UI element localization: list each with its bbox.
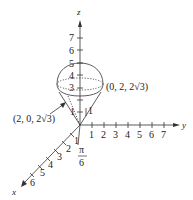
- y-tick-label: 6: [149, 129, 154, 140]
- y-axis-label: y: [181, 120, 186, 130]
- z-tick-label: 5: [69, 58, 74, 69]
- cone-height-label: 1: [88, 105, 93, 116]
- point-label-left: (2, 0, 2√3): [13, 113, 55, 125]
- y-axis-arrow-icon: [173, 123, 180, 127]
- y-tick-label: 2: [101, 129, 106, 140]
- angle-numerator: π: [79, 144, 84, 155]
- z-tick-label: 1: [70, 106, 75, 117]
- x-axis: [24, 125, 80, 183]
- y-tick-label: 7: [161, 129, 166, 140]
- solid-of-ice-cream-cone-diagram: z y x 7 6 5 4 3 1 1 2 3 4 5 6 7 1 2 3 4 …: [0, 0, 193, 200]
- x-tick-label: 2: [66, 143, 71, 154]
- z-tick-label: 4: [69, 70, 74, 81]
- angle-denominator: 6: [79, 157, 84, 168]
- x-axis-label: x: [11, 187, 16, 197]
- y-tick-label: 4: [125, 129, 130, 140]
- x-tick-label: 4: [48, 159, 53, 170]
- pointer-arrow-icon: [60, 102, 66, 108]
- z-axis-label: z: [76, 7, 81, 17]
- point-label-right: (0, 2, 2√3): [106, 81, 148, 93]
- y-tick-label: 5: [137, 129, 142, 140]
- x-tick-label: 5: [40, 167, 45, 178]
- x-tick-label: 3: [57, 151, 62, 162]
- y-tick-label: 3: [113, 129, 118, 140]
- z-axis-arrow-icon: [78, 20, 82, 27]
- z-tick-label: 3: [69, 82, 74, 93]
- z-tick-label: 7: [69, 32, 74, 43]
- z-tick-label: 6: [69, 45, 74, 56]
- x-tick-label: 6: [30, 177, 35, 188]
- y-tick-label: 1: [89, 129, 94, 140]
